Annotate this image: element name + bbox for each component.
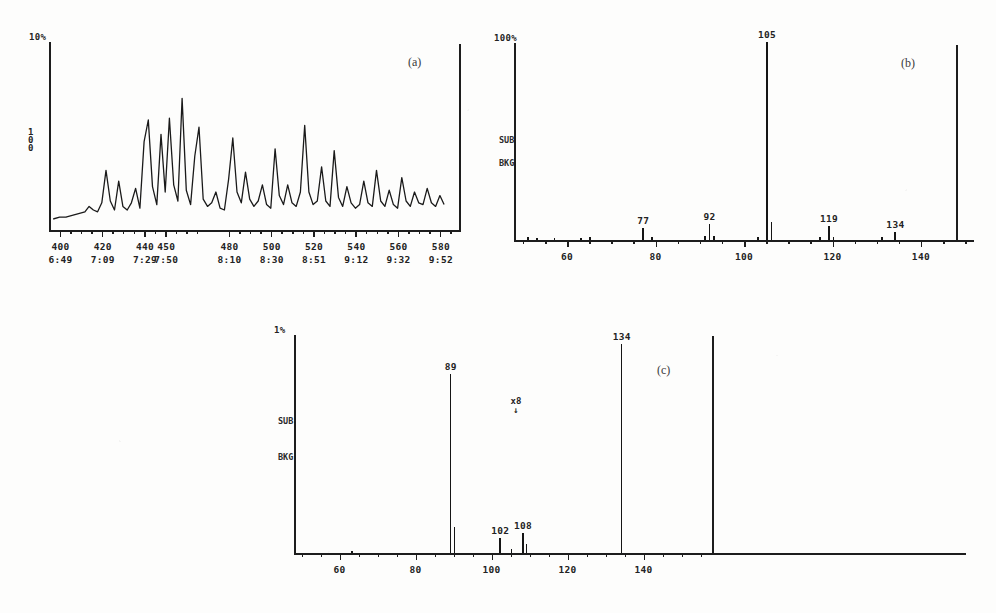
panel-b-tick-labels: 6080100120140 <box>480 251 996 271</box>
spectrum-minor-tick <box>359 553 361 557</box>
panel-a-tick <box>313 230 315 237</box>
spectrum-tick <box>492 553 494 560</box>
spectrum-minor-tick <box>722 240 724 244</box>
panel-mass-spectrum-b: 100% SUB BKG (b) 7792105119134 608010012… <box>480 0 996 300</box>
panel-a-minor-tick <box>239 230 241 234</box>
spectrum-tick <box>567 240 569 247</box>
spectrum-peak-label: 134 <box>612 331 632 342</box>
panel-a-time-label: 8:30 <box>258 254 286 265</box>
spectrum-minor-tick <box>899 240 901 244</box>
spectrum-minor-tick <box>589 240 591 244</box>
spectrum-minor-tick <box>700 240 702 244</box>
spectrum-tick-label: 80 <box>644 251 668 262</box>
spectrum-minor-tick <box>701 553 703 557</box>
spectrum-minor-tick <box>397 553 399 557</box>
spectrum-tick-label: 60 <box>555 251 579 262</box>
panel-a-minor-tick <box>334 230 336 234</box>
panel-a-minor-tick <box>155 230 157 234</box>
spectrum-minor-tick <box>523 240 525 244</box>
panel-a-minor-tick <box>408 230 410 234</box>
spectrum-tick <box>340 553 342 560</box>
spectrum-tick <box>656 240 658 247</box>
panel-a-time-label: 9:12 <box>342 254 370 265</box>
spectrum-minor-tick <box>678 240 680 244</box>
spectrum-tick <box>568 553 570 560</box>
spectrum-tick <box>416 553 418 560</box>
panel-a-tick-labels: 4006:494207:094407:294507:504808:105008:… <box>0 241 480 271</box>
panel-a-minor-tick <box>292 230 294 234</box>
spectrum-tick-label: 140 <box>909 251 933 262</box>
spectrum-minor-tick <box>549 553 551 557</box>
panel-a-minor-tick <box>197 230 199 234</box>
spectrum-peak-label: 92 <box>700 211 720 222</box>
panel-a-minor-tick <box>345 230 347 234</box>
spectrum-minor-tick <box>606 553 608 557</box>
panel-a-minor-tick <box>303 230 305 234</box>
spectrum-minor-tick <box>473 553 475 557</box>
panel-a-minor-tick <box>450 230 452 234</box>
spectrum-minor-tick <box>302 553 304 557</box>
spectrum-minor-tick <box>788 240 790 244</box>
panel-a-tick-label: 480 <box>218 241 242 252</box>
spectrum-tick-label: 120 <box>821 251 845 262</box>
panel-a-y-side-digit-3: 0 <box>28 144 33 152</box>
spectrum-peak-label: 134 <box>885 219 905 230</box>
panel-a-tick-label: 420 <box>91 241 115 252</box>
spectrum-tick-label: 140 <box>632 564 656 575</box>
spectrum-minor-tick <box>545 240 547 244</box>
panel-a-tick-marks <box>49 230 461 240</box>
panel-a-tick <box>440 230 442 237</box>
panel-a-tick <box>102 230 104 237</box>
spectrum-minor-tick <box>663 553 665 557</box>
panel-a-minor-tick <box>324 230 326 234</box>
panel-a-tick <box>165 230 167 237</box>
spectrum-minor-tick <box>810 240 812 244</box>
panel-a-minor-tick <box>366 230 368 234</box>
panel-a-minor-tick <box>91 230 93 234</box>
panel-a-time-label: 6:49 <box>47 254 75 265</box>
spectrum-tick-label: 120 <box>556 564 580 575</box>
spectrum-tick <box>833 240 835 247</box>
spectrum-tick <box>644 553 646 560</box>
panel-a-tick-label: 450 <box>154 241 178 252</box>
panel-a-tick-label: 540 <box>344 241 368 252</box>
spectrum-tick <box>921 240 923 247</box>
spectrum-minor-tick <box>587 553 589 557</box>
panel-a-time-label: 7:09 <box>89 254 117 265</box>
panel-a-tick-label: 500 <box>260 241 284 252</box>
spectrum-tick-label: 100 <box>480 564 504 575</box>
panel-c-tick-labels: 6080100120140 <box>260 564 996 584</box>
spectrum-minor-tick <box>625 553 627 557</box>
panel-a-minor-tick <box>260 230 262 234</box>
spectrum-minor-tick <box>766 240 768 244</box>
panel-b-tick-marks <box>514 240 974 250</box>
panel-a-minor-tick <box>123 230 125 234</box>
spectrum-peak-label: 105 <box>757 29 777 40</box>
panel-a-minor-tick <box>429 230 431 234</box>
panel-chromatogram-a: 10% 1 0 0 (a) 4006:494207:094407:294507:… <box>0 0 480 300</box>
spectrum-tick-label: 80 <box>404 564 428 575</box>
spectrum-minor-tick <box>454 553 456 557</box>
spectrum-peak-label: 102 <box>490 525 510 536</box>
spectrum-peak-label: 119 <box>819 213 839 224</box>
panel-a-tick <box>271 230 273 237</box>
panel-a-trace <box>49 40 461 230</box>
panel-c-peak-labels: 89102108134 <box>260 300 996 558</box>
panel-a-minor-tick <box>134 230 136 234</box>
panel-a-time-label: 7:50 <box>152 254 180 265</box>
panel-a-tick <box>229 230 231 237</box>
spectrum-minor-tick <box>965 240 967 244</box>
panel-a-minor-tick <box>377 230 379 234</box>
spectrum-minor-tick <box>633 240 635 244</box>
panel-a-tick-label: 560 <box>387 241 411 252</box>
panel-a-minor-tick <box>387 230 389 234</box>
spectrum-minor-tick <box>855 240 857 244</box>
panel-a-tick <box>398 230 400 237</box>
panel-a-minor-tick <box>70 230 72 234</box>
panel-c-tick-marks <box>294 553 712 563</box>
panel-a-tick <box>144 230 146 237</box>
panel-a-minor-tick <box>281 230 283 234</box>
spectrum-tick-label: 60 <box>328 564 352 575</box>
panel-a-time-label: 8:51 <box>300 254 328 265</box>
panel-a-tick <box>60 230 62 237</box>
